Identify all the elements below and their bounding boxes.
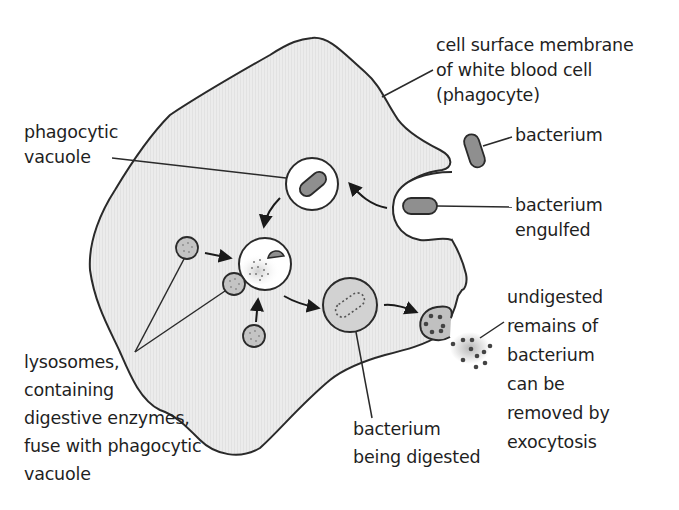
remains-leader-line [480, 322, 504, 338]
free-bacterium [462, 132, 487, 169]
label-lysosomes: lysosomes, containing digestive enzymes,… [24, 348, 201, 488]
label-bacterium-engulfed: bacterium engulfed [515, 193, 602, 243]
label-being-digested: bacterium being digested [353, 415, 480, 471]
label-phagocytic-vacuole: phagocytic vacuole [24, 120, 118, 170]
label-membrane: cell surface membrane of white blood cel… [436, 33, 633, 108]
label-bacterium: bacterium [515, 123, 602, 148]
membrane-leader-line [382, 70, 433, 97]
label-undigested-remains: undigested remains of bacterium can be r… [507, 283, 610, 457]
engulfed-leader-line [437, 206, 512, 207]
lysosome-top [176, 237, 198, 259]
engulfed-bacterium [403, 198, 437, 214]
bacterium-leader-line [483, 137, 512, 146]
lysosome-fusing [223, 273, 245, 295]
digesting-vacuole [323, 278, 377, 332]
lysosome-bottom [243, 325, 265, 347]
